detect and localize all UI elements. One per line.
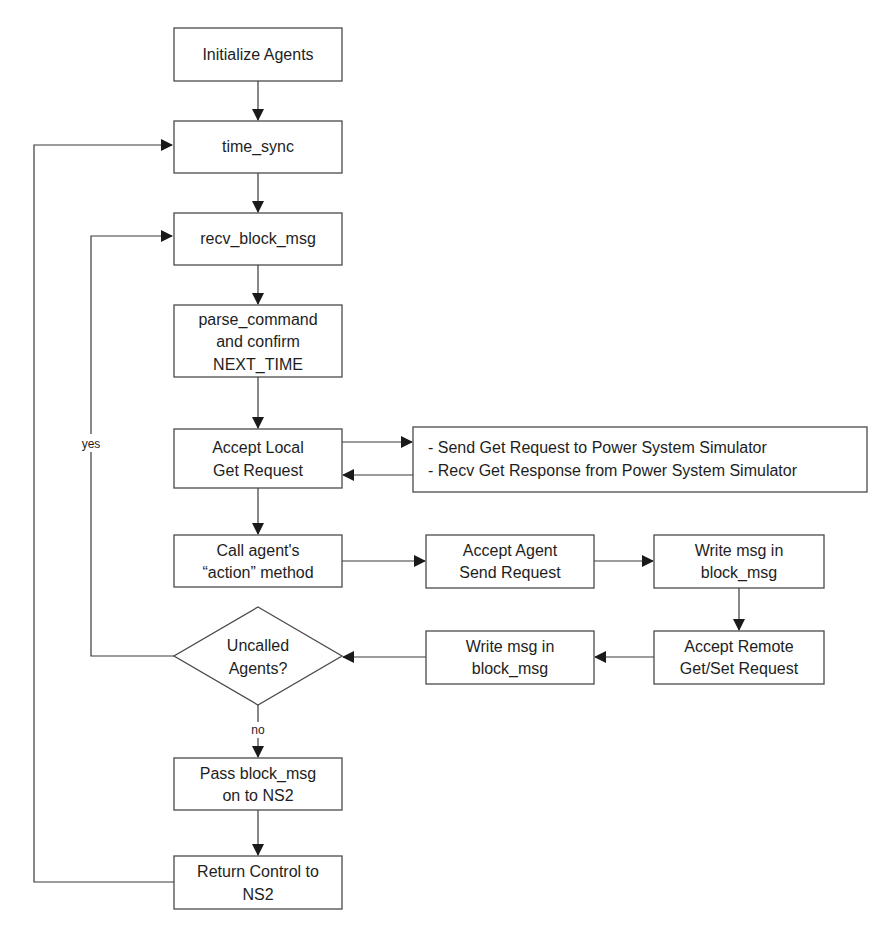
node-accept-local-get-request: Accept Local Get Request <box>174 429 342 488</box>
node-write-msg-top: Write msg in block_msg <box>654 535 824 588</box>
flowchart: yes no Initialize Agents time_sync recv_… <box>0 0 895 931</box>
node-label: and confirm <box>216 333 300 350</box>
node-label: on to NS2 <box>222 787 293 804</box>
node-label: Write msg in <box>466 638 555 655</box>
edge-label-no: no <box>251 723 265 737</box>
node-label: block_msg <box>472 660 548 678</box>
node-label: Accept Local <box>212 439 304 456</box>
node-label: - Send Get Request to Power System Simul… <box>428 439 767 456</box>
node-call-agent-action: Call agent's “action” method <box>174 535 342 587</box>
edge-return-to-timesync <box>34 145 174 882</box>
node-label: Initialize Agents <box>202 46 313 63</box>
node-label: recv_block_msg <box>200 230 316 248</box>
node-label: Accept Remote <box>684 638 793 655</box>
node-label: Send Request <box>459 564 561 581</box>
node-return-control: Return Control to NS2 <box>174 856 342 909</box>
node-label: Get Request <box>213 462 303 479</box>
node-recv-block-msg: recv_block_msg <box>174 213 342 265</box>
node-accept-remote-get-set: Accept Remote Get/Set Request <box>654 631 824 684</box>
node-label: Call agent's <box>216 542 299 559</box>
node-label: Return Control to <box>197 863 319 880</box>
node-label: - Recv Get Response from Power System Si… <box>428 462 798 479</box>
node-label: time_sync <box>222 138 294 156</box>
node-label: NEXT_TIME <box>213 356 303 374</box>
node-accept-agent-send-request: Accept Agent Send Request <box>426 535 594 588</box>
node-label: block_msg <box>701 564 777 582</box>
node-uncalled-agents-decision: Uncalled Agents? <box>174 607 342 705</box>
node-label: Get/Set Request <box>680 660 799 677</box>
node-parse-command: parse_command and confirm NEXT_TIME <box>174 305 342 377</box>
node-time-sync: time_sync <box>174 121 342 173</box>
edge-label-yes: yes <box>82 437 101 451</box>
node-power-system-simulator: - Send Get Request to Power System Simul… <box>413 427 867 492</box>
node-label: Accept Agent <box>463 542 558 559</box>
node-label: Pass block_msg <box>200 765 317 783</box>
node-write-msg-bottom: Write msg in block_msg <box>426 631 594 684</box>
node-label: “action” method <box>202 564 313 581</box>
node-initialize-agents: Initialize Agents <box>174 28 342 81</box>
node-label: Agents? <box>229 660 288 677</box>
node-label: Write msg in <box>695 542 784 559</box>
node-label: parse_command <box>198 311 317 329</box>
node-pass-block-msg: Pass block_msg on to NS2 <box>174 758 342 810</box>
node-label: Uncalled <box>227 637 289 654</box>
node-label: NS2 <box>242 886 273 903</box>
